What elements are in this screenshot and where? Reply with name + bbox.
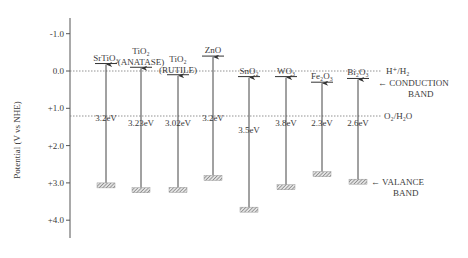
valence-band-hatch — [277, 185, 295, 190]
material-name: TiO₂ — [169, 54, 186, 64]
valence-band-hatch — [204, 175, 222, 180]
y-ticks: -1.00.0+1.0+2.0+3.0+4.0 — [48, 29, 70, 226]
material-5: WO₃3.8eV — [275, 66, 297, 190]
material-name: SrTiO₃ — [93, 53, 118, 63]
material-6: Fe₂O₃2.3eV — [311, 71, 333, 177]
conduction-band-label-2: BAND — [408, 89, 434, 99]
band-gap-label: 3.02eV — [165, 118, 192, 128]
y-tick-label: 0.0 — [53, 66, 65, 76]
o2-label: O₂/H₂O — [384, 111, 413, 121]
band-gap-label: 3.2eV — [95, 113, 117, 123]
band-gap-label: 2.3eV — [311, 118, 333, 128]
material-1: TiO₂(ANATASE)3.23eV — [118, 46, 164, 192]
material-name: TiO₂ — [132, 46, 149, 56]
valance-band-label-2: BAND — [393, 188, 419, 198]
material-name: Fe₂O₃ — [311, 71, 333, 81]
material-0: SrTiO₃3.2eV — [93, 53, 118, 188]
y-tick-label: +3.0 — [48, 178, 65, 188]
material-4: SnO₂3.5eV — [238, 66, 260, 213]
y-tick-label: +4.0 — [48, 215, 65, 225]
valence-band-hatch — [132, 188, 150, 193]
materials-group: SrTiO₃3.2eVTiO₂(ANATASE)3.23eVTiO₂(RUTIL… — [93, 45, 369, 212]
y-tick-label: -1.0 — [50, 29, 65, 39]
material-7: Bi₂O₃2.6eV — [347, 67, 369, 184]
valence-band-hatch — [313, 172, 331, 177]
h2-label: H⁺/H₂ — [386, 66, 409, 76]
material-phase: (ANATASE) — [118, 57, 164, 67]
band-gap-label: 3.8eV — [275, 118, 297, 128]
band-gap-label: 2.6eV — [347, 118, 369, 128]
material-name: ZnO — [205, 45, 222, 55]
material-3: ZnO3.2eV — [202, 45, 224, 180]
material-name: SnO₂ — [239, 66, 258, 76]
valence-band-hatch — [97, 183, 115, 188]
material-phase: (RUTILE) — [159, 65, 197, 75]
band-diagram: -1.00.0+1.0+2.0+3.0+4.0 Potential (V vs … — [0, 0, 468, 258]
band-gap-label: 3.2eV — [202, 113, 224, 123]
conduction-band-label: ← CONDUCTION — [378, 78, 449, 88]
y-axis-label: Potential (V vs NHE) — [12, 101, 22, 179]
band-gap-label: 3.23eV — [128, 118, 155, 128]
valance-band-label: ← VALANCE — [371, 177, 424, 187]
y-tick-label: +1.0 — [48, 103, 65, 113]
material-2: TiO₂(RUTILE)3.02eV — [159, 54, 197, 193]
y-tick-label: +2.0 — [48, 141, 65, 151]
valence-band-hatch — [240, 207, 258, 212]
band-gap-label: 3.5eV — [238, 125, 260, 135]
material-name: WO₃ — [277, 66, 295, 76]
valence-band-hatch — [169, 187, 187, 192]
material-name: Bi₂O₃ — [347, 67, 368, 77]
valence-band-hatch — [349, 179, 367, 184]
